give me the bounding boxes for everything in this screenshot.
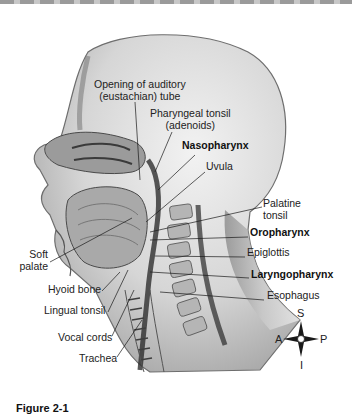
- label-auditory-tube: Opening of auditory (eustachian) tube: [94, 78, 186, 102]
- label-nasopharynx: Nasopharynx: [182, 139, 249, 151]
- label-soft-palate: Soft palate: [18, 248, 48, 272]
- label-laryngopharynx: Laryngopharynx: [251, 268, 333, 280]
- label-line: palate: [18, 260, 48, 272]
- label-epiglottis: Epiglottis: [247, 246, 290, 258]
- label-uvula: Uvula: [206, 160, 233, 172]
- label-palatine-tonsil: Palatine tonsil: [263, 197, 301, 221]
- compass-posterior-label: P: [320, 333, 327, 345]
- label-line: (eustachian) tube: [94, 90, 186, 102]
- label-esophagus: Esophagus: [267, 289, 320, 301]
- label-oropharynx: Oropharynx: [250, 226, 310, 238]
- label-line: Soft: [18, 248, 48, 260]
- label-vocal-cords: Vocal cords: [58, 331, 112, 343]
- label-trachea: Trachea: [79, 352, 117, 364]
- label-line: Pharyngeal tonsil: [150, 107, 231, 119]
- tongue: [66, 187, 147, 268]
- compass-anterior-label: A: [275, 333, 282, 345]
- compass-inferior-label: I: [300, 359, 303, 371]
- label-line: (adenoids): [150, 119, 231, 131]
- figure-caption: Figure 2-1: [16, 402, 69, 414]
- label-lingual-tonsil: Lingual tonsil: [44, 304, 105, 316]
- label-pharyngeal-tonsil: Pharyngeal tonsil (adenoids): [150, 107, 231, 131]
- label-hyoid-bone: Hyoid bone: [48, 283, 101, 295]
- label-line: Palatine: [263, 197, 301, 209]
- label-line: Opening of auditory: [94, 78, 186, 90]
- compass-superior-label: S: [297, 307, 304, 319]
- label-line: tonsil: [263, 209, 301, 221]
